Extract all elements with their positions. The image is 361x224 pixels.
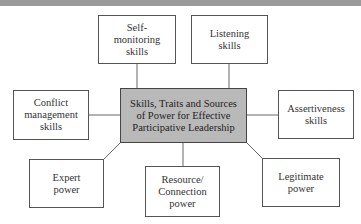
node-listening-skills: Listening skills <box>191 15 268 64</box>
node-conflict-management-skills: Conflict management skills <box>13 90 89 140</box>
node-label: Resource/ Connection power <box>158 174 206 210</box>
node-label: Conflict management skills <box>24 97 78 133</box>
node-self-monitoring-skills: Self- monitoring skills <box>98 15 176 64</box>
central-concept-label: Skills, Traits and Sources of Power for … <box>130 98 237 134</box>
node-label: Expert power <box>53 172 81 196</box>
node-label: Listening skills <box>210 28 250 52</box>
node-label: Self- monitoring skills <box>114 22 161 58</box>
node-legitimate-power: Legitimate power <box>262 158 340 207</box>
node-label: Assertiveness skills <box>287 103 345 127</box>
node-expert-power: Expert power <box>29 159 104 208</box>
node-label: Legitimate power <box>278 171 323 195</box>
central-concept-box: Skills, Traits and Sources of Power for … <box>120 88 247 143</box>
node-resource-connection-power: Resource/ Connection power <box>145 166 220 217</box>
node-assertiveness-skills: Assertiveness skills <box>278 90 354 139</box>
